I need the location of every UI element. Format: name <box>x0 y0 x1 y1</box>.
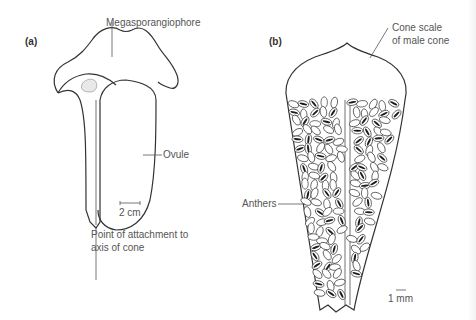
figure-canvas <box>0 0 476 320</box>
megasporangiophore-label: Megasporangiophore <box>106 17 201 29</box>
anthers-label: Anthers <box>242 198 276 210</box>
cone-scale-label-line2: of male cone <box>392 35 449 47</box>
panel-a-tag: (a) <box>25 36 37 47</box>
attachment-label-line2: axis of cone <box>91 242 144 254</box>
page-edge-shadow <box>468 0 476 320</box>
scale-bar-a-label: 2 cm <box>119 207 141 219</box>
scale-bar-b-label: 1 mm <box>388 293 413 305</box>
megasporangiophore-drawing <box>54 28 178 230</box>
ovule-label: Ovule <box>163 149 189 161</box>
panel-b-tag: (b) <box>269 36 282 47</box>
attachment-label-line1: Point of attachment to <box>91 229 188 241</box>
cone-scale-label-line1: Cone scale <box>392 22 442 34</box>
